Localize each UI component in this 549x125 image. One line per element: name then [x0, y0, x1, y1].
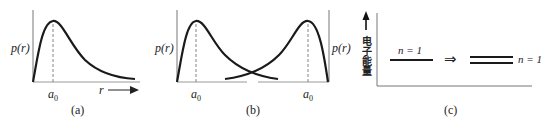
panel-b-right-y-label: p(r): [332, 42, 351, 54]
panel-a-graph: [33, 10, 140, 94]
panel-b-right-peak-label: a0: [303, 88, 313, 103]
panel-c-graph: [363, 11, 533, 86]
panel-b-left-peak-subscript: 0: [197, 94, 201, 103]
panel-a-r-arrowhead: [130, 86, 139, 94]
panel-c-left-level-label: n = 1: [398, 45, 422, 56]
panel-c-energy-arrowhead: [363, 11, 370, 20]
panel-a-caption: (a): [71, 104, 84, 116]
panel-c-caption: (c): [444, 104, 457, 116]
panel-b-left-y-label: p(r): [155, 42, 174, 54]
panel-c-right-level-label: n = 1: [518, 54, 542, 65]
panel-c-y-label: 电子能量: [360, 36, 370, 76]
panel-b-left-curve: [177, 21, 278, 82]
panel-a-y-label: p(r): [11, 42, 30, 54]
panel-a-x-label: r: [99, 84, 104, 96]
panel-b-right-peak-subscript: 0: [309, 94, 313, 103]
panel-b-right-curve: [225, 21, 328, 82]
panel-a-peak-label: a0: [48, 88, 58, 103]
panel-b-graph: [177, 10, 329, 82]
panel-a-probability-curve: [33, 21, 135, 82]
panel-b-caption: (b): [246, 104, 260, 116]
panel-b-left-y-text: p(r): [155, 41, 174, 55]
panel-b-left-peak-label: a0: [191, 88, 201, 103]
panel-a-peak-subscript: 0: [54, 94, 58, 103]
panel-c-transition-arrow: ⇒: [444, 52, 457, 67]
